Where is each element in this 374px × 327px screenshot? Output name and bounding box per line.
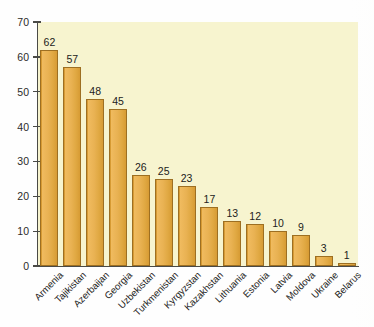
- y-axis-tick-label-20: 20: [5, 191, 29, 202]
- bar-group: 57: [63, 22, 81, 266]
- bar: [223, 221, 241, 266]
- bar-group: 3: [315, 22, 333, 266]
- bar-group: 23: [178, 22, 196, 266]
- bar-group: 45: [109, 22, 127, 266]
- bar-group: 1: [338, 22, 356, 266]
- y-axis-tick-label-70: 70: [5, 17, 29, 28]
- bar: [86, 99, 104, 266]
- bar-group: 9: [292, 22, 310, 266]
- bars-layer: 6257484526252317131210931: [38, 22, 358, 266]
- bar: [155, 179, 173, 266]
- bar-group: 13: [223, 22, 241, 266]
- bar-chart-figure: 010203040506070 625748452625231713121093…: [0, 0, 374, 327]
- bar: [338, 263, 356, 266]
- bar: [109, 109, 127, 266]
- bar: [269, 231, 287, 266]
- y-axis-tick-label-10: 10: [5, 226, 29, 237]
- x-axis-category-labels: ArmeniaTajikistanAzerbaijanGeorgiaUzbeki…: [38, 268, 368, 327]
- bar-group: 12: [246, 22, 264, 266]
- bar-group: 25: [155, 22, 173, 266]
- bar-group: 48: [86, 22, 104, 266]
- bar: [40, 50, 58, 266]
- bar: [132, 175, 150, 266]
- y-axis-tick-label-0: 0: [5, 261, 29, 272]
- y-axis-tick-label-50: 50: [5, 87, 29, 98]
- bar-value-label: 1: [327, 250, 367, 261]
- bar-group: 26: [132, 22, 150, 266]
- y-axis-tick-label-30: 30: [5, 156, 29, 167]
- y-axis-tick-label-60: 60: [5, 52, 29, 63]
- y-axis-tick-label-40: 40: [5, 122, 29, 133]
- bar-group: 17: [200, 22, 218, 266]
- bar: [63, 67, 81, 266]
- bar: [246, 224, 264, 266]
